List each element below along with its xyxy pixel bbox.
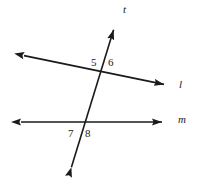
transversal-t <box>71 30 113 167</box>
angle-label-7: 7 <box>68 128 74 139</box>
geometry-figure: 5 6 7 8 t l m <box>0 0 202 193</box>
line-label-l: l <box>179 79 182 90</box>
geometry-canvas <box>0 0 202 193</box>
angle-label-5: 5 <box>91 57 97 68</box>
line-label-t: t <box>123 4 126 15</box>
line-label-m: m <box>178 114 186 125</box>
angle-label-8: 8 <box>85 128 91 139</box>
angle-label-6: 6 <box>108 57 114 68</box>
